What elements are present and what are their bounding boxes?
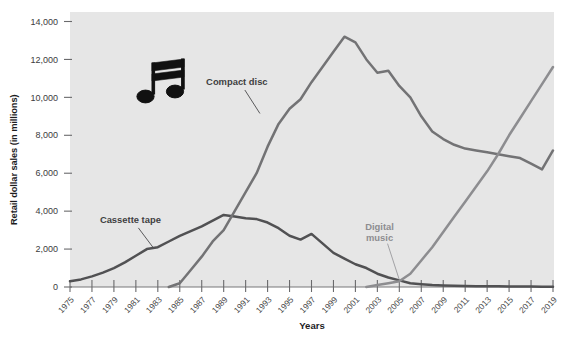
y-tick-label: 6,000 — [35, 168, 58, 178]
y-tick-label: 12,000 — [30, 55, 58, 65]
x-axis-title: Years — [299, 320, 325, 331]
y-tick-label: 8,000 — [35, 130, 58, 140]
series-label-digital-music: Digital — [365, 221, 394, 232]
y-tick-label: 0 — [53, 282, 58, 292]
y-tick-label: 2,000 — [35, 244, 58, 254]
series-label-cassette-tape: Cassette tape — [100, 214, 161, 225]
y-axis-title: Retail dollar sales (in millions) — [9, 94, 19, 225]
series-label-digital-music-line2: music — [366, 232, 393, 243]
y-tick-label: 10,000 — [30, 93, 58, 103]
y-tick-label: 14,000 — [30, 17, 58, 27]
line-chart: 02,0004,0006,0008,00010,00012,00014,000 … — [0, 0, 574, 342]
plot-area-background — [70, 12, 554, 287]
y-tick-label: 4,000 — [35, 206, 58, 216]
series-label-compact-disc: Compact disc — [206, 76, 267, 87]
chart-container: 02,0004,0006,0008,00010,00012,00014,000 … — [0, 0, 574, 342]
